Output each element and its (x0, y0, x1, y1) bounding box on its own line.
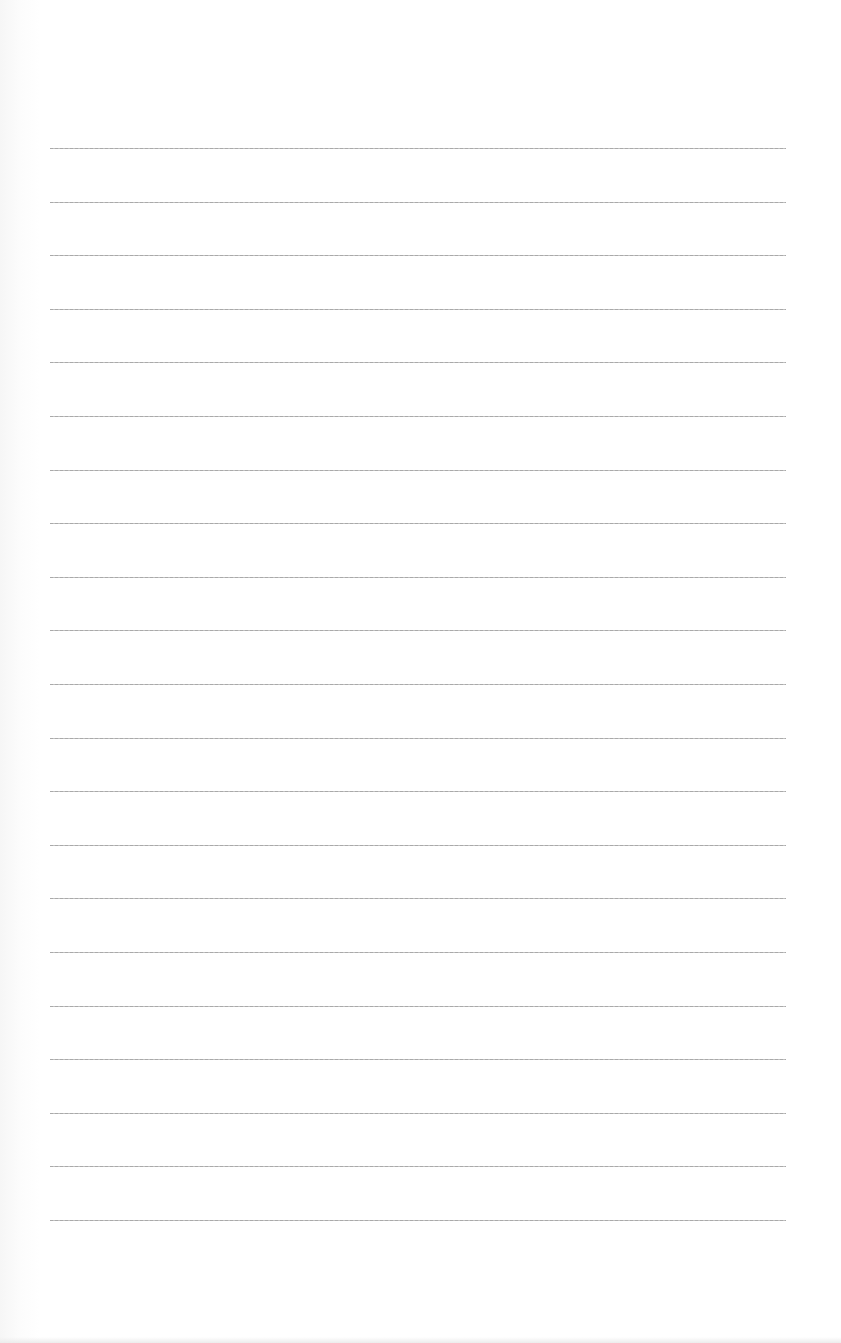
ruled-line (50, 1220, 786, 1221)
ruled-line (50, 362, 786, 363)
ruled-line (50, 952, 786, 953)
ruled-line (50, 1113, 786, 1114)
ruled-line (50, 255, 786, 256)
ruled-line (50, 791, 786, 792)
ruled-line (50, 738, 786, 739)
ruled-line (50, 523, 786, 524)
ruled-line (50, 1166, 786, 1167)
ruled-line (50, 470, 786, 471)
ruled-line (50, 898, 786, 899)
ruled-line (50, 309, 786, 310)
ruled-line (50, 202, 786, 203)
ruled-line (50, 684, 786, 685)
ruled-line (50, 845, 786, 846)
ruled-line (50, 416, 786, 417)
ruled-line (50, 148, 786, 149)
ruled-line (50, 1006, 786, 1007)
ruled-line (50, 1059, 786, 1060)
ruled-line (50, 630, 786, 631)
ruled-line (50, 577, 786, 578)
lined-paper-page (0, 0, 841, 1343)
